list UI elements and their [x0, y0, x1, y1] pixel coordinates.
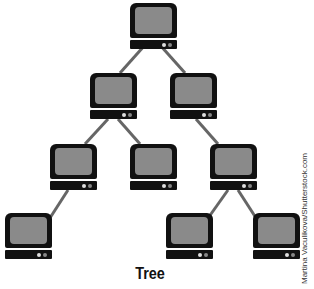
computer-monitor-icon: [253, 213, 300, 259]
computer-monitor-icon: [210, 144, 257, 190]
edge-n3-n6: [196, 119, 218, 144]
computer-monitor-icon: [50, 144, 97, 190]
image-credit: Martina Vaculikova/Shutterstock.com: [300, 153, 309, 284]
edge-n1-n2: [120, 45, 145, 73]
tree-diagram: Tree Martina Vaculikova/Shutterstock.com: [0, 0, 314, 289]
computer-monitor-icon: [130, 3, 177, 49]
computer-monitor-icon: [130, 144, 177, 190]
edge-n2-n5: [118, 119, 140, 144]
edge-n2-n4: [85, 119, 108, 144]
edge-n1-n3: [160, 45, 185, 73]
computer-monitor-icon: [5, 213, 52, 259]
computer-monitor-icon: [170, 73, 217, 119]
computer-monitor-icon: [166, 213, 213, 259]
diagram-title: Tree: [125, 264, 176, 284]
computer-monitor-icon: [90, 73, 137, 119]
